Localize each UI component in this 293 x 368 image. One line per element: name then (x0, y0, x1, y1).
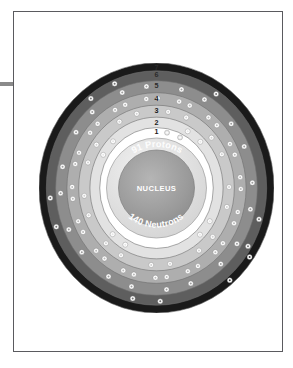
electron (178, 135, 183, 140)
electron (196, 248, 201, 253)
electron (227, 278, 232, 283)
electron (134, 111, 139, 116)
electron (209, 135, 214, 140)
electron (110, 232, 115, 237)
electron (88, 130, 93, 135)
electron (242, 144, 247, 149)
electron (66, 227, 71, 232)
electron (74, 130, 79, 135)
electron (165, 130, 170, 135)
electron (219, 152, 224, 157)
electron (102, 256, 107, 261)
electron (101, 152, 106, 157)
electron (77, 150, 82, 155)
page-canvas: 1234567 91 Protons NUCLEUS 140 Neutrons (0, 0, 293, 368)
shell-number-4: 4 (155, 94, 159, 103)
electron (103, 241, 108, 246)
electron (113, 107, 118, 112)
electron (94, 142, 99, 147)
electron (70, 196, 75, 201)
electron (214, 123, 219, 128)
electron (88, 96, 93, 101)
electron (70, 184, 75, 189)
electron (250, 180, 255, 185)
electron (206, 115, 211, 120)
electron (95, 121, 100, 126)
electron (111, 139, 116, 144)
electron (129, 284, 134, 289)
electron (82, 193, 87, 198)
electron (86, 213, 91, 218)
electron (60, 164, 65, 169)
electron (214, 91, 219, 96)
electron (246, 244, 251, 249)
electron (94, 248, 99, 253)
electron (123, 242, 128, 247)
shell-number-3: 3 (155, 106, 159, 115)
electron (158, 299, 163, 304)
shell-number-labels: 1234567 (155, 63, 159, 136)
electron (131, 272, 136, 277)
electron (220, 241, 225, 246)
atom-diagram-svg: 1234567 91 Protons NUCLEUS 140 Neutrons (39, 63, 274, 313)
shell-number-1: 1 (155, 127, 159, 136)
electron (227, 185, 232, 190)
shell-number-5: 5 (155, 81, 159, 90)
electron (202, 97, 207, 102)
electron (234, 241, 239, 246)
electron (197, 232, 202, 237)
electron (177, 99, 182, 104)
electron (130, 296, 135, 301)
electron (187, 103, 192, 108)
electron (218, 261, 223, 266)
page-frame-border: 1234567 91 Protons NUCLEUS 140 Neutrons (13, 11, 283, 352)
electron (123, 102, 128, 107)
electron (112, 81, 117, 86)
electron (185, 269, 190, 274)
electron (58, 191, 63, 196)
electron (235, 210, 240, 215)
electron (168, 261, 173, 266)
shell-number-7: 7 (155, 63, 159, 72)
electron (248, 207, 253, 212)
electron (231, 221, 236, 226)
electron (144, 84, 149, 89)
electron (207, 219, 212, 224)
shell-number-2: 2 (155, 118, 159, 127)
electron (257, 217, 262, 222)
electron (106, 274, 111, 279)
electron (213, 250, 218, 255)
nucleus-center-label: NUCLEUS (137, 184, 177, 193)
electron (48, 196, 53, 201)
electron (119, 253, 124, 258)
electron (120, 90, 125, 95)
electron (86, 160, 91, 165)
electron (90, 110, 95, 115)
electron (195, 264, 200, 269)
electron (79, 250, 84, 255)
electron (54, 224, 59, 229)
electron (210, 234, 215, 239)
electron (232, 152, 237, 157)
electron (144, 96, 149, 101)
electron (153, 275, 158, 280)
electron (164, 275, 169, 280)
atom-diagram-stage: 1234567 91 Protons NUCLEUS 140 Neutrons (39, 63, 274, 313)
electron (238, 187, 243, 192)
electron (81, 230, 86, 235)
electron (184, 115, 189, 120)
electron (188, 281, 193, 286)
electron (73, 161, 78, 166)
electron (166, 109, 171, 114)
electron (185, 129, 190, 134)
electron (149, 262, 154, 267)
electron (238, 175, 243, 180)
electron (121, 268, 126, 273)
electron (247, 255, 252, 260)
electron (117, 119, 122, 124)
electron (179, 87, 184, 92)
electron (76, 219, 81, 224)
electron (224, 204, 229, 209)
electron (229, 121, 234, 126)
electron (164, 287, 169, 292)
